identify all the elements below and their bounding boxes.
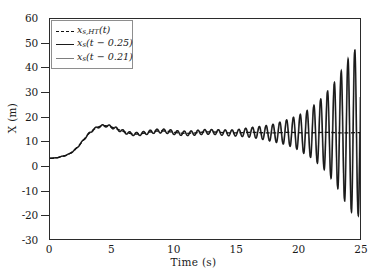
y-tick-label: 60 [0,18,38,28]
y-tick-label: -20 [0,215,38,225]
y-tick-label: 50 [0,43,38,53]
y-tick [41,117,49,118]
y-tick-label: 40 [0,67,38,77]
x-tick-label: 5 [94,243,128,255]
legend-label: xs,HT(t) [77,24,110,38]
y-tick [41,166,49,167]
legend-label: xs(t − 0.21) [77,51,133,65]
y-tick [41,67,49,68]
x-tick-label: 20 [282,243,316,255]
x-tick-label: 10 [157,243,191,255]
legend-item-delay-025: xs(t − 0.25) [55,38,128,52]
x-axis-title: Time (s) [0,256,387,268]
y-axis-title: X (m) [6,88,18,148]
y-tick [41,141,49,142]
y-tick [41,215,49,216]
y-tick-label: 0 [0,166,38,176]
legend: xs,HT(t) xs(t − 0.25) xs(t − 0.21) [51,20,133,69]
legend-item-delay-021: xs(t − 0.21) [55,51,128,65]
legend-label: xs(t − 0.25) [77,37,133,51]
x-tick-label: 25 [344,243,378,255]
y-tick [41,191,49,192]
y-tick-label: -10 [0,191,38,201]
chart-figure: 60 50 40 30 20 10 0 -10 -20 -30 0 5 10 1… [0,0,387,277]
x-tick-label: 15 [219,243,253,255]
legend-item-hilbert: xs,HT(t) [55,24,128,38]
legend-swatch-solid-dark-icon [55,39,75,49]
x-tick-label: 0 [32,243,66,255]
y-tick [41,43,49,44]
legend-swatch-dashed-icon [55,26,75,36]
legend-swatch-solid-grey-icon [55,53,75,63]
y-tick [41,92,49,93]
